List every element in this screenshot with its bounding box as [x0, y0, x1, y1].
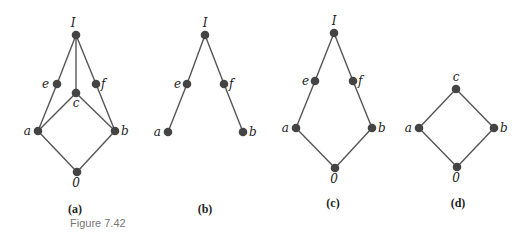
node-a	[292, 124, 301, 133]
edge-b-0	[77, 131, 115, 172]
edge-f-b	[224, 84, 243, 132]
node-label-b: b	[249, 125, 257, 139]
node-0	[331, 164, 340, 173]
edge-e-a	[38, 84, 57, 131]
node-label-I: I	[331, 14, 337, 28]
node-e	[183, 80, 192, 89]
edge-c-b	[76, 93, 115, 131]
edge-f-b	[353, 81, 372, 128]
edge-c-b	[456, 89, 494, 128]
edge-e-a	[296, 81, 315, 128]
edge-I-f	[334, 33, 353, 81]
node-label-0: 0	[330, 172, 338, 186]
node-label-b: b	[500, 121, 508, 135]
node-a	[415, 124, 424, 133]
node-b	[111, 127, 120, 136]
edge-I-e	[57, 35, 76, 84]
node-0	[73, 168, 82, 177]
edge-a-0	[296, 128, 335, 168]
node-label-I: I	[70, 16, 76, 30]
edge-I-f	[205, 35, 224, 84]
node-label-f: f	[228, 77, 236, 91]
diagram-caption-c: (c)	[326, 196, 339, 210]
node-a	[34, 127, 43, 136]
edge-f-b	[96, 84, 115, 131]
node-label-b: b	[378, 121, 386, 135]
node-e	[53, 80, 62, 89]
node-label-e: e	[174, 77, 181, 91]
edge-a-0	[38, 131, 77, 172]
node-c	[452, 85, 461, 94]
node-e	[311, 77, 320, 86]
node-label-a: a	[154, 125, 161, 139]
node-label-0: 0	[72, 176, 80, 190]
diagram-b: Iefab(b)	[154, 16, 257, 216]
diagram-caption-a: (a)	[68, 202, 82, 216]
diagram-a: Iecfab0(a)	[24, 16, 129, 216]
diagram-c: Iefab0(c)	[282, 14, 386, 210]
figure-canvas: Iecfab0(a)Iefab(b)Iefab0(c)cab0(d) Figur…	[0, 0, 530, 245]
edge-I-e	[315, 33, 334, 81]
figure-number-label: Figure 7.42	[70, 217, 126, 229]
node-b	[239, 128, 248, 137]
lattice-diagrams: Iecfab0(a)Iefab(b)Iefab0(c)cab0(d)	[24, 14, 508, 216]
node-label-a: a	[282, 121, 289, 135]
node-f	[220, 80, 229, 89]
node-label-e: e	[42, 77, 49, 91]
edge-a-0	[419, 128, 457, 167]
node-0	[453, 163, 462, 172]
node-label-a: a	[24, 124, 31, 138]
diagram-caption-d: (d)	[451, 196, 466, 210]
node-label-e: e	[302, 74, 309, 88]
node-label-a: a	[405, 121, 412, 135]
node-f	[349, 77, 358, 86]
node-label-c: c	[453, 70, 460, 84]
node-I	[201, 31, 210, 40]
diagram-d: cab0(d)	[405, 70, 508, 210]
edge-e-a	[168, 84, 187, 132]
edge-b-0	[457, 128, 494, 167]
diagram-caption-b: (b)	[198, 202, 213, 216]
node-a	[164, 128, 173, 137]
node-I	[330, 29, 339, 38]
node-b	[368, 124, 377, 133]
node-label-f: f	[100, 77, 108, 91]
node-label-b: b	[121, 124, 129, 138]
edge-c-a	[38, 93, 76, 131]
node-I	[72, 31, 81, 40]
node-label-f: f	[357, 74, 365, 88]
edge-b-0	[335, 128, 372, 168]
node-f	[92, 80, 101, 89]
node-b	[490, 124, 499, 133]
edge-c-a	[419, 89, 456, 128]
node-label-I: I	[202, 16, 208, 30]
node-label-c: c	[73, 96, 80, 110]
node-label-0: 0	[452, 171, 460, 185]
edge-I-f	[76, 35, 96, 84]
edge-I-e	[187, 35, 205, 84]
